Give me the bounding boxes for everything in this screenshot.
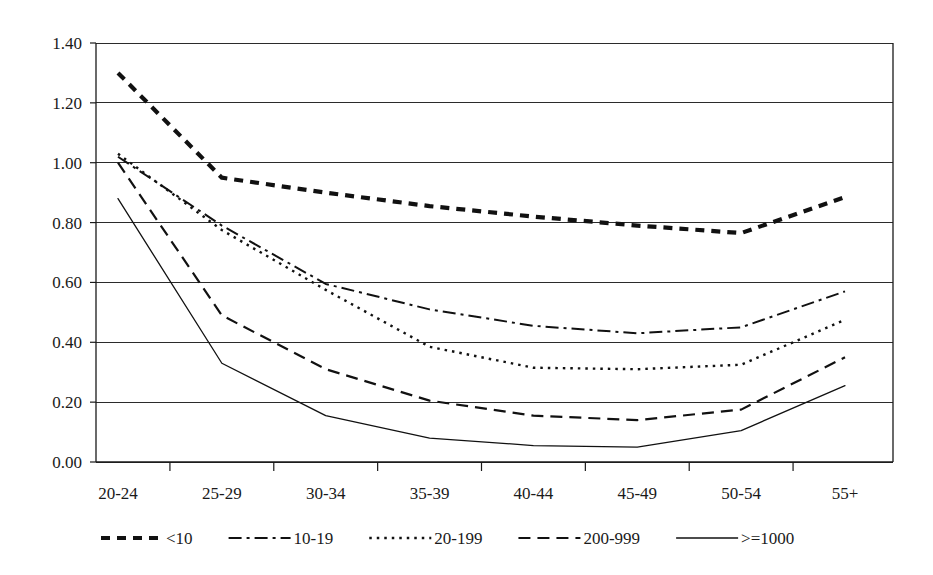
x-category-label: 50-54	[721, 484, 761, 503]
y-tick-label: 0.60	[52, 273, 82, 292]
legend-label-10: <10	[166, 529, 193, 548]
x-category-label: 55+	[832, 484, 859, 503]
x-category-label: 30-34	[306, 484, 346, 503]
y-tick-label: 1.20	[52, 94, 82, 113]
x-category-label: 45-49	[617, 484, 657, 503]
x-category-label: 35-39	[410, 484, 450, 503]
x-category-label: 20-24	[98, 484, 138, 503]
line-chart-figure: 0.000.200.400.600.801.001.201.40 20-2425…	[0, 0, 933, 575]
x-category-label: 25-29	[202, 484, 242, 503]
y-tick-label: 1.40	[52, 34, 82, 53]
legend-label-10-19: 10-19	[294, 529, 334, 548]
legend-label-20-199: 20-199	[434, 529, 482, 548]
x-category-label: 40-44	[514, 484, 554, 503]
y-tick-label: 0.40	[52, 333, 82, 352]
chart-background	[0, 0, 933, 575]
y-tick-label: 1.00	[52, 154, 82, 173]
legend-label-1000: >=1000	[741, 529, 794, 548]
y-tick-label: 0.80	[52, 214, 82, 233]
y-tick-label: 0.20	[52, 393, 82, 412]
y-tick-label: 0.00	[52, 453, 82, 472]
legend-label-200-999: 200-999	[583, 529, 640, 548]
chart-canvas: 0.000.200.400.600.801.001.201.40 20-2425…	[0, 0, 933, 575]
